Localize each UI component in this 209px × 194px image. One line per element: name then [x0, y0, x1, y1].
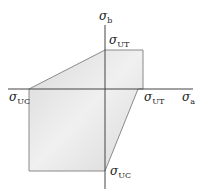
- label-left-ultimate-compressive: σUC: [9, 90, 30, 106]
- label-top-ultimate-tensile: σUT: [109, 33, 130, 49]
- label-bottom-ultimate-compressive: σUC: [110, 164, 131, 180]
- y-axis-label: σb: [99, 9, 112, 25]
- x-axis-label: σa: [182, 90, 195, 106]
- failure-envelope-diagram: σb σa σUT σUT σUC σUC: [0, 0, 209, 194]
- failure-envelope-region: [29, 50, 143, 171]
- label-right-ultimate-tensile: σUT: [144, 90, 165, 106]
